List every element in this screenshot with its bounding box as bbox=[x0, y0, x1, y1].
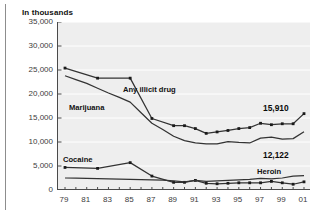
end-label-marijuana-value: 12,122 bbox=[263, 150, 289, 160]
x-tick-label: 97 bbox=[249, 195, 271, 204]
x-tick-label: 99 bbox=[270, 195, 292, 204]
data-point-marker bbox=[281, 122, 284, 125]
series-line-any-illicit-drug bbox=[65, 68, 304, 133]
page-left-rule bbox=[5, 4, 6, 210]
y-tick-label: 35,000 bbox=[3, 17, 53, 26]
data-point-marker bbox=[227, 129, 230, 132]
y-tick-label: 10,000 bbox=[3, 137, 53, 146]
data-point-marker bbox=[64, 67, 67, 70]
data-point-marker bbox=[303, 112, 306, 115]
y-tick-label: 0 bbox=[3, 185, 53, 194]
x-tick-label: 95 bbox=[227, 195, 249, 204]
y-tick-label: 25,000 bbox=[3, 65, 53, 74]
data-point-marker bbox=[237, 181, 240, 184]
annotation-heroin: Heroin bbox=[257, 167, 281, 176]
data-point-marker bbox=[216, 182, 219, 185]
data-point-marker bbox=[270, 123, 273, 126]
x-tick-label: 01 bbox=[292, 195, 314, 204]
data-point-marker bbox=[129, 77, 132, 80]
x-tick-label: 85 bbox=[118, 195, 140, 204]
data-point-marker bbox=[183, 124, 186, 127]
data-point-marker bbox=[172, 124, 175, 127]
data-point-marker bbox=[237, 127, 240, 130]
data-point-marker bbox=[96, 77, 99, 80]
chart-title: In thousands bbox=[22, 8, 73, 17]
data-point-marker bbox=[151, 175, 154, 178]
series-line-heroin bbox=[65, 176, 304, 182]
data-point-marker bbox=[194, 127, 197, 130]
data-point-marker bbox=[259, 181, 262, 184]
data-point-marker bbox=[248, 126, 251, 129]
x-tick-label: 89 bbox=[162, 195, 184, 204]
data-point-marker bbox=[216, 131, 219, 134]
data-point-marker bbox=[227, 182, 230, 185]
y-tick-label: 30,000 bbox=[3, 41, 53, 50]
annotation-any-illicit-drug: Any illicit drug bbox=[123, 85, 176, 94]
x-tick-label: 79 bbox=[53, 195, 75, 204]
data-point-marker bbox=[248, 181, 251, 184]
x-tick-label: 87 bbox=[140, 195, 162, 204]
data-point-marker bbox=[205, 132, 208, 135]
data-point-marker bbox=[151, 117, 154, 120]
annotation-marijuana: Marijuana bbox=[69, 103, 104, 112]
data-point-marker bbox=[270, 180, 273, 183]
annotation-cocaine: Cocaine bbox=[63, 155, 93, 164]
y-tick-label: 5,000 bbox=[3, 161, 53, 170]
data-point-marker bbox=[292, 122, 295, 125]
x-tick-label: 83 bbox=[96, 195, 118, 204]
data-point-marker bbox=[96, 167, 99, 170]
data-point-marker bbox=[129, 161, 132, 164]
end-label-any-illicit-drug-value: 15,910 bbox=[263, 103, 289, 113]
data-point-marker bbox=[64, 166, 67, 169]
data-point-marker bbox=[292, 183, 295, 186]
x-tick-label: 93 bbox=[205, 195, 227, 204]
y-tick-label: 15,000 bbox=[3, 113, 53, 122]
data-point-marker bbox=[303, 180, 306, 183]
data-point-marker bbox=[281, 181, 284, 184]
x-tick-label: 91 bbox=[183, 195, 205, 204]
data-point-marker bbox=[205, 182, 208, 185]
x-tick-label: 81 bbox=[75, 195, 97, 204]
data-point-marker bbox=[259, 122, 262, 125]
chart-figure: In thousands 05,00010,00015,00020,00025,… bbox=[0, 0, 323, 221]
y-tick-label: 20,000 bbox=[3, 89, 53, 98]
